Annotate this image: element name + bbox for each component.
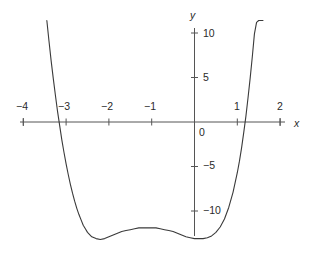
x-tick-label--2: −2	[101, 101, 113, 112]
x-axis-name: x	[294, 118, 299, 129]
y-tick-label--10: −10	[203, 205, 221, 216]
chart-figure: −4 −3 −2 −1 1 2 10 5 0 −5 −10 x y	[0, 0, 315, 256]
plot-canvas	[0, 0, 315, 256]
y-tick-label--5: −5	[203, 160, 215, 171]
x-tick-label--4: −4	[16, 101, 28, 112]
x-tick-label--1: −1	[144, 101, 156, 112]
y-tick-label-5: 5	[203, 72, 209, 83]
y-axis-name: y	[190, 10, 195, 21]
x-tick-label-2: 2	[277, 101, 283, 112]
x-tick-label-1: 1	[234, 101, 240, 112]
y-tick-label-10: 10	[203, 28, 215, 39]
x-tick-label--3: −3	[58, 101, 70, 112]
y-tick-label-0: 0	[199, 127, 205, 138]
axis-group	[20, 28, 285, 236]
function-curve	[47, 21, 263, 240]
